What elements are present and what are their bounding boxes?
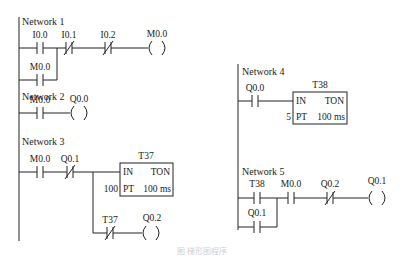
timer-in-label: IN xyxy=(123,167,133,177)
timer-name: T38 xyxy=(312,80,328,90)
network-1-label: Network 1 xyxy=(22,16,65,27)
timer-pt-value: 5 xyxy=(286,112,291,122)
timer-pt-label: PT xyxy=(296,112,307,122)
timer-pt-value: 100 xyxy=(104,184,119,194)
contact-no-icon xyxy=(288,192,294,204)
coil-label: Q0.0 xyxy=(70,94,89,104)
contact-no-icon xyxy=(254,221,260,233)
ladder-diagram-svg: Network 1 I0.0 I0.1 I0.2 M0.0 M0.0 N xyxy=(0,0,404,259)
contact-label: M0.0 xyxy=(30,62,51,72)
network-5-label: Network 5 xyxy=(242,166,285,177)
network-3-label: Network 3 xyxy=(22,136,65,147)
coil-icon xyxy=(369,191,385,205)
network-5: Network 5 T38 M0.0 Q0.2 Q0.1 Q0.1 xyxy=(238,166,387,233)
coil-icon xyxy=(71,106,87,120)
contact-label: M0.0 xyxy=(30,95,51,105)
contact-no-icon xyxy=(37,166,43,178)
coil-label: Q0.1 xyxy=(368,176,387,186)
contact-label: I0.1 xyxy=(61,30,76,40)
contact-label: Q0.2 xyxy=(321,179,340,189)
contact-label: I0.2 xyxy=(100,30,115,40)
contact-label: T38 xyxy=(249,179,265,189)
contact-label: M0.0 xyxy=(281,179,302,189)
coil-icon xyxy=(143,226,159,240)
network-2: Network 2 M0.0 Q0.0 xyxy=(19,91,89,120)
timer-base-label: 100 ms xyxy=(317,112,345,122)
coil-icon xyxy=(149,41,165,55)
figure-caption: 图 梯形图程序 xyxy=(177,246,227,256)
contact-label: T37 xyxy=(102,215,118,225)
contact-label: I0.0 xyxy=(32,30,47,40)
network-4-label: Network 4 xyxy=(242,66,285,77)
network-3: Network 3 M0.0 Q0.1 T37 IN TON PT 100 ms… xyxy=(19,136,173,240)
coil-label: M0.0 xyxy=(147,29,168,39)
timer-pt-label: PT xyxy=(123,184,134,194)
contact-no-icon xyxy=(37,107,43,119)
contact-no-icon xyxy=(37,42,43,54)
contact-label: Q0.1 xyxy=(61,154,80,164)
timer-type-label: TON xyxy=(151,167,170,177)
timer-base-label: 100 ms xyxy=(143,184,171,194)
network-4: Network 4 Q0.0 T38 IN TON PT 100 ms 5 xyxy=(238,66,347,124)
timer-name: T37 xyxy=(138,151,154,161)
coil-label: Q0.2 xyxy=(143,213,162,223)
contact-label: M0.0 xyxy=(30,154,51,164)
contact-no-icon xyxy=(252,95,258,107)
contact-no-icon xyxy=(37,74,43,86)
contact-no-icon xyxy=(254,192,260,204)
contact-label: Q0.1 xyxy=(248,208,267,218)
ladder-diagram: Network 1 I0.0 I0.1 I0.2 M0.0 M0.0 N xyxy=(0,0,404,259)
network-1: Network 1 I0.0 I0.1 I0.2 M0.0 M0.0 xyxy=(19,16,167,86)
timer-type-label: TON xyxy=(325,96,344,106)
contact-label: Q0.0 xyxy=(246,83,265,93)
timer-in-label: IN xyxy=(296,96,306,106)
